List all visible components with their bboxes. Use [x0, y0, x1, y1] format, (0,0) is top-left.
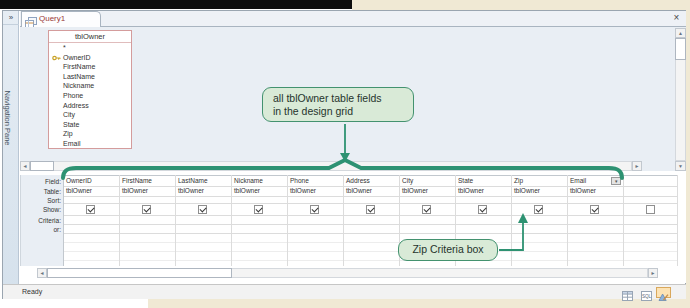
status-bar: Ready SQL — [3, 284, 686, 299]
show-checkbox[interactable] — [86, 205, 95, 214]
design-view-icon[interactable] — [656, 287, 671, 298]
scroll-down-icon[interactable]: ▼ — [675, 161, 686, 171]
grid-row-line — [63, 215, 677, 216]
grid-row-line — [63, 260, 677, 261]
field-list-item-label: State — [63, 121, 79, 128]
field-cell[interactable]: LastName — [178, 177, 226, 186]
grid-row-label: Criteria: — [20, 216, 61, 225]
show-checkbox[interactable] — [646, 205, 655, 214]
field-list-item[interactable]: Nickname — [49, 81, 131, 91]
show-checkbox[interactable] — [142, 205, 151, 214]
callout-all-fields: all tblOwner table fields in the design … — [262, 87, 414, 122]
scroll-right-icon[interactable]: ► — [648, 268, 658, 278]
table-cell[interactable]: tblOwner — [402, 187, 450, 196]
table-cell[interactable]: tblOwner — [290, 187, 338, 196]
grid-row-label: Sort: — [20, 197, 61, 204]
field-cell[interactable]: OwnerID — [66, 177, 114, 186]
page-background — [352, 0, 690, 10]
table-cell[interactable]: tblOwner — [514, 187, 562, 196]
field-list-item-label: Zip — [63, 130, 73, 137]
grid-row-line — [63, 251, 677, 252]
show-checkbox[interactable] — [422, 205, 431, 214]
table-cell[interactable]: tblOwner — [178, 187, 226, 196]
field-list-item[interactable]: Address — [49, 101, 131, 111]
grid-column-line — [677, 175, 678, 266]
field-list-item[interactable]: LastName — [49, 72, 131, 82]
scroll-left-icon[interactable]: ◄ — [37, 268, 47, 278]
callout-all-fields-line1: all tblOwner table fields — [273, 92, 413, 105]
grid-row-label: Field: — [20, 176, 61, 187]
field-list-item[interactable]: FirstName — [49, 62, 131, 72]
shutter-bar-open-icon[interactable]: » — [3, 12, 19, 25]
grid-row-line — [63, 175, 677, 176]
upper-pane-hscrollbar-thumb[interactable] — [30, 161, 54, 171]
field-dropdown-icon[interactable]: ▾ — [611, 177, 621, 185]
grid-hscrollbar-thumb[interactable] — [47, 268, 232, 278]
field-list-item[interactable]: State — [49, 120, 131, 130]
field-cell[interactable]: Nickname — [234, 177, 282, 186]
table-cell[interactable]: tblOwner — [66, 187, 114, 196]
upper-pane-hscrollbar[interactable] — [30, 161, 632, 171]
svg-text:SQL: SQL — [642, 294, 652, 299]
show-checkbox[interactable] — [366, 205, 375, 214]
sql-view-icon[interactable]: SQL — [639, 287, 654, 298]
field-list-item-label: OwnerID — [63, 54, 91, 61]
tab-query1[interactable]: Query1 — [21, 11, 101, 27]
object-tab-bar — [20, 11, 686, 27]
field-list-item[interactable]: * — [49, 43, 131, 53]
grid-column-line — [231, 175, 232, 266]
field-list-item-label: Address — [63, 102, 89, 109]
datasheet-view-icon[interactable] — [620, 287, 635, 298]
field-list-item-label: FirstName — [63, 63, 95, 70]
show-checkbox[interactable] — [198, 205, 207, 214]
show-checkbox[interactable] — [534, 205, 543, 214]
screenshot-stage: » Navigation Pane Query1 × tblOwner *Own… — [0, 0, 690, 308]
scroll-left-icon[interactable]: ◄ — [20, 161, 30, 171]
grid-row-line — [63, 242, 677, 243]
field-list-item[interactable]: OwnerID — [49, 53, 131, 63]
grid-column-line — [175, 175, 176, 266]
table-cell[interactable]: tblOwner — [234, 187, 282, 196]
page-scan-black-bar — [0, 0, 352, 9]
field-cell[interactable]: Zip — [514, 177, 562, 186]
table-cell[interactable]: tblOwner — [122, 187, 170, 196]
grid-column-line — [567, 175, 568, 266]
field-list-tblowner[interactable]: tblOwner *OwnerIDFirstNameLastNameNickna… — [48, 30, 132, 149]
show-checkbox[interactable] — [590, 205, 599, 214]
status-ready-text: Ready — [22, 285, 42, 299]
grid-column-line — [63, 175, 64, 266]
field-cell[interactable]: City — [402, 177, 450, 186]
field-list-item-label: Email — [63, 140, 81, 147]
table-cell[interactable]: tblOwner — [570, 187, 618, 196]
field-cell[interactable]: Address — [346, 177, 394, 186]
field-list-title: tblOwner — [49, 31, 131, 43]
table-cell[interactable]: tblOwner — [346, 187, 394, 196]
show-checkbox[interactable] — [310, 205, 319, 214]
table-cell[interactable]: tblOwner — [458, 187, 506, 196]
grid-row-label: Show: — [20, 204, 61, 216]
grid-row-line — [63, 203, 677, 204]
grid-row-line — [63, 224, 677, 225]
scroll-up-icon[interactable]: ▲ — [675, 28, 686, 38]
grid-row-label: Table: — [20, 187, 61, 197]
navigation-pane-label[interactable]: Navigation Pane — [1, 72, 13, 164]
scroll-right-icon[interactable]: ► — [632, 161, 642, 171]
callout-zip-criteria: Zip Criteria box — [398, 239, 498, 261]
field-list-item[interactable]: City — [49, 110, 131, 120]
field-list-item[interactable]: Phone — [49, 91, 131, 101]
page-background — [148, 299, 690, 308]
show-checkbox[interactable] — [254, 205, 263, 214]
field-list-item[interactable]: Zip — [49, 129, 131, 139]
show-checkbox[interactable] — [478, 205, 487, 214]
field-list-item-label: Phone — [63, 92, 83, 99]
page-background — [686, 10, 690, 300]
upper-pane-vscrollbar-thumb[interactable] — [675, 38, 686, 60]
field-cell[interactable]: State — [458, 177, 506, 186]
grid-column-line — [119, 175, 120, 266]
grid-column-line — [287, 175, 288, 266]
field-cell[interactable]: FirstName — [122, 177, 170, 186]
close-icon[interactable]: × — [670, 12, 683, 25]
field-list-item-label: * — [63, 44, 66, 51]
field-list-item[interactable]: Email — [49, 139, 131, 149]
field-cell[interactable]: Phone — [290, 177, 338, 186]
